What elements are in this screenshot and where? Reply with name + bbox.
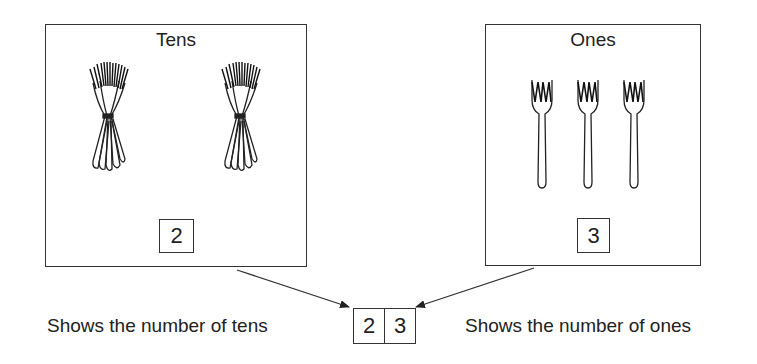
combined-ones-digit: 3 — [384, 309, 415, 343]
combined-tens-digit: 2 — [354, 309, 384, 343]
tens-arrow — [237, 270, 349, 307]
tens-caption: Shows the number of tens — [47, 315, 268, 337]
ones-arrow — [416, 268, 534, 307]
ones-caption: Shows the number of ones — [465, 315, 691, 337]
combined-number-box: 2 3 — [353, 308, 416, 344]
